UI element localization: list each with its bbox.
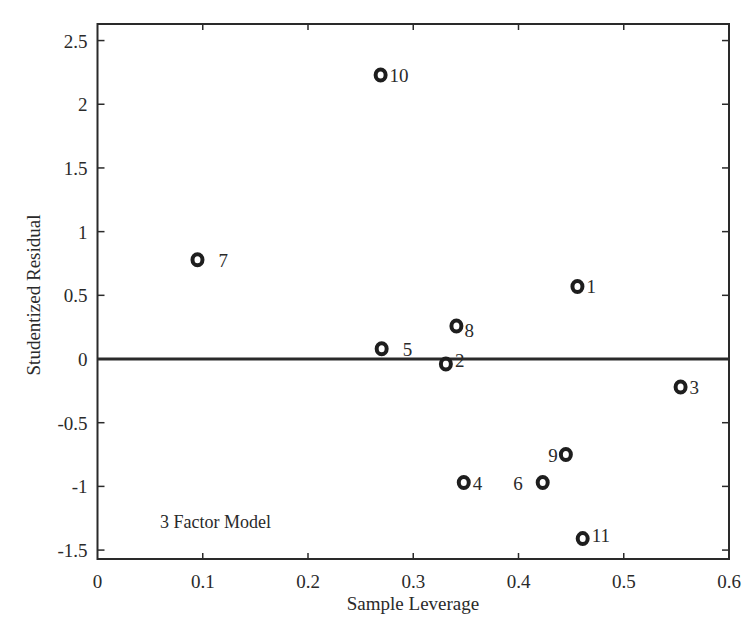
data-point-10: 10 bbox=[376, 65, 409, 86]
x-tick-label: 0.6 bbox=[717, 571, 741, 592]
y-tick-label: 0 bbox=[78, 349, 88, 370]
data-point-4: 4 bbox=[459, 473, 483, 494]
y-tick-label: -1.5 bbox=[57, 540, 87, 561]
data-point-9: 9 bbox=[548, 445, 571, 466]
y-tick-label: 0.5 bbox=[64, 285, 88, 306]
data-point-8: 8 bbox=[451, 320, 474, 341]
data-points: 1234567891011 bbox=[192, 65, 699, 546]
model-annotation: 3 Factor Model bbox=[160, 512, 271, 532]
data-point-7: 7 bbox=[192, 250, 228, 271]
point-marker bbox=[572, 281, 582, 292]
point-label: 5 bbox=[403, 339, 413, 360]
point-label: 7 bbox=[218, 250, 228, 271]
data-point-5: 5 bbox=[377, 339, 413, 360]
point-marker bbox=[377, 343, 387, 354]
y-axis-label: Studentized Residual bbox=[23, 215, 44, 376]
x-axis-label: Sample Leverage bbox=[347, 593, 479, 614]
ticks: 00.10.20.30.40.50.6-1.5-1-0.500.511.522.… bbox=[57, 24, 740, 592]
data-point-6: 6 bbox=[513, 473, 548, 494]
point-marker bbox=[376, 69, 386, 80]
y-tick-label: 1.5 bbox=[64, 158, 88, 179]
y-tick-label: 2.5 bbox=[64, 31, 88, 52]
point-marker bbox=[578, 533, 588, 544]
point-label: 4 bbox=[473, 473, 483, 494]
point-marker bbox=[561, 449, 571, 460]
y-tick-label: 2 bbox=[78, 94, 88, 115]
point-marker bbox=[676, 382, 686, 393]
x-tick-label: 0.2 bbox=[296, 571, 320, 592]
x-tick-label: 0.1 bbox=[191, 571, 215, 592]
data-point-3: 3 bbox=[676, 377, 700, 398]
point-label: 1 bbox=[586, 276, 596, 297]
point-label: 6 bbox=[513, 473, 523, 494]
plot-frame bbox=[98, 24, 730, 559]
y-tick-label: -1 bbox=[72, 476, 88, 497]
point-marker bbox=[441, 359, 451, 370]
scatter-chart: 00.10.20.30.40.50.6-1.5-1-0.500.511.522.… bbox=[0, 0, 754, 634]
point-marker bbox=[538, 477, 548, 488]
point-label: 10 bbox=[390, 65, 409, 86]
y-tick-label: 1 bbox=[78, 222, 88, 243]
point-marker bbox=[451, 320, 461, 331]
point-marker bbox=[459, 477, 469, 488]
x-tick-label: 0 bbox=[93, 571, 103, 592]
point-label: 9 bbox=[548, 445, 558, 466]
point-label: 11 bbox=[592, 525, 610, 546]
x-tick-label: 0.4 bbox=[507, 571, 531, 592]
x-tick-label: 0.3 bbox=[401, 571, 425, 592]
y-tick-label: -0.5 bbox=[57, 413, 87, 434]
point-label: 3 bbox=[690, 377, 700, 398]
data-point-2: 2 bbox=[441, 350, 465, 371]
data-point-11: 11 bbox=[578, 525, 610, 546]
axes bbox=[98, 24, 730, 559]
point-label: 8 bbox=[464, 320, 474, 341]
point-marker bbox=[192, 254, 202, 265]
x-tick-label: 0.5 bbox=[612, 571, 636, 592]
point-label: 2 bbox=[455, 350, 465, 371]
data-point-1: 1 bbox=[572, 276, 596, 297]
